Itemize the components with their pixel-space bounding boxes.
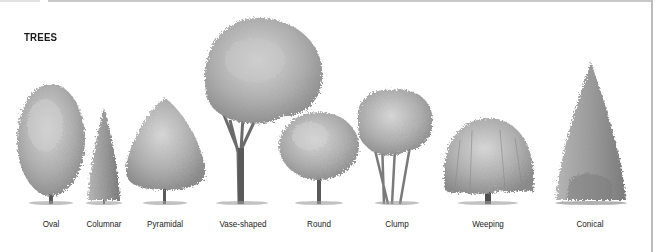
tree-label-conical: Conical bbox=[577, 218, 604, 229]
tree-oval-illustration bbox=[17, 84, 85, 205]
tree-label-pyramidal: Pyramidal bbox=[147, 218, 183, 229]
tree-pyramidal-illustration bbox=[126, 98, 205, 205]
tree-label-clump: Clump bbox=[385, 218, 408, 229]
tree-clump-illustration bbox=[358, 89, 433, 205]
tree-illustrations bbox=[0, 0, 662, 252]
tree-round-illustration bbox=[279, 112, 359, 205]
tree-columnar-illustration bbox=[86, 108, 122, 205]
tree-label-oval: Oval bbox=[43, 218, 60, 229]
tree-conical-illustration bbox=[555, 62, 627, 205]
tree-label-round: Round bbox=[307, 218, 331, 229]
tree-label-columnar: Columnar bbox=[86, 218, 121, 229]
tree-label-weeping: Weeping bbox=[472, 218, 504, 229]
tree-label-vase-shaped: Vase-shaped bbox=[220, 218, 267, 229]
tree-weeping-illustration bbox=[444, 118, 534, 205]
